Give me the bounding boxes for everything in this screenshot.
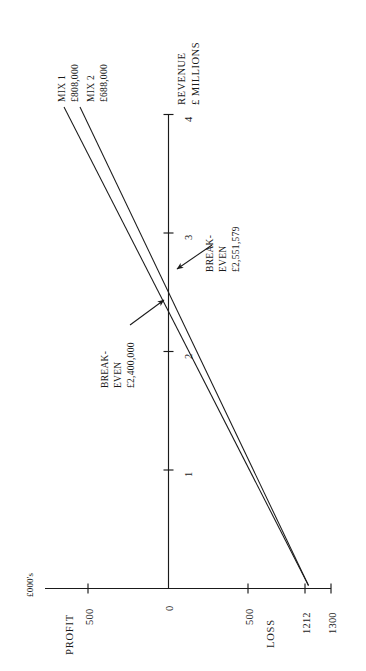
mix-1-line [64, 107, 309, 586]
break-even-arrow-mix-1 [130, 300, 164, 325]
tick-label-revenue-3: 3 [183, 235, 195, 240]
break-even-chart-figure: £000's PROFIT 500 0 500 LOSS 1212 1300 1… [0, 0, 366, 671]
mix-2-line [80, 107, 309, 586]
series-label-mix-1-name: MIX 1 [57, 75, 68, 102]
profit-axis-unit-label: £000's [25, 573, 36, 597]
profit-loss-axis-group [45, 584, 331, 594]
tick-label-revenue-1: 1 [183, 472, 195, 477]
tick-label-loss-500: 500 [244, 609, 256, 625]
break-even-mix-2-line3: £2,551,579 [231, 226, 242, 272]
series-label-mix-1-value: £808,000 [70, 64, 81, 102]
break-even-mix-1-line1: BREAK- [100, 351, 111, 388]
tick-label-profit-500: 500 [84, 609, 96, 625]
loss-region-label: LOSS [265, 619, 277, 648]
tick-label-loss-1300: 1300 [327, 612, 339, 634]
revenue-axis-title-line1: REVENUE [176, 53, 188, 106]
break-even-mix-1-line3: £2,400,000 [126, 342, 137, 388]
tick-label-origin-0: 0 [164, 606, 176, 611]
tick-label-revenue-4: 4 [183, 117, 195, 122]
break-even-mix-2-line2: EVEN [218, 245, 229, 272]
tick-label-revenue-2: 2 [183, 354, 195, 359]
revenue-axis-group [164, 114, 174, 589]
series-label-mix-2-value: £688,000 [99, 64, 110, 102]
break-even-mix-2-line1: BREAK- [205, 235, 216, 272]
series-line-mix-2 [80, 107, 309, 586]
revenue-axis-title-line2: £ MILLIONS [190, 42, 202, 105]
break-even-mix-1-line2: EVEN [113, 361, 124, 388]
break-even-leader-mix-1 [130, 300, 164, 325]
tick-label-loss-1212: 1212 [301, 612, 313, 634]
series-line-mix-1 [64, 107, 309, 586]
series-label-mix-2-name: MIX 2 [86, 75, 97, 102]
profit-region-label: PROFIT [64, 614, 76, 655]
